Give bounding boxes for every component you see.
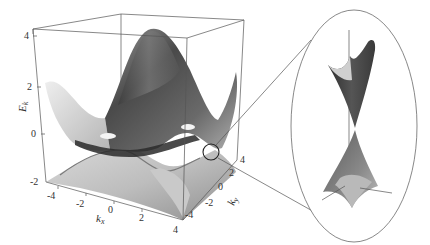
e-tick-4: 4 <box>24 30 29 41</box>
kx-tick-4: 4 <box>173 224 178 235</box>
kx-tick-2: 2 <box>139 212 144 223</box>
ky-tick-neg2: -2 <box>205 197 213 208</box>
ky-tick-4: 4 <box>240 154 245 165</box>
ky-tick-neg4: -4 <box>185 209 193 220</box>
ky-tick-2: 2 <box>229 167 234 178</box>
e-tick-0: 0 <box>31 128 36 139</box>
energy-axis-label: Ek <box>16 101 30 113</box>
energy-axis: 4 2 0 -2 Ek <box>16 30 45 187</box>
dirac-cone-inset <box>291 10 417 242</box>
kx-tick-neg2: -2 <box>76 198 84 209</box>
ky-tick-0: 0 <box>218 181 223 192</box>
e-tick-2: 2 <box>27 81 32 92</box>
band-structure-figure: -4 -2 0 2 4 kx -4 -2 0 2 4 ky 4 2 0 -2 E… <box>0 0 430 245</box>
upper-band-surface <box>45 29 237 157</box>
kx-tick-0: 0 <box>108 204 113 215</box>
e-tick-neg2: -2 <box>30 176 38 187</box>
kx-axis-label: kx <box>96 212 105 226</box>
ky-axis-label: ky <box>225 194 241 207</box>
kx-tick-neg4: -4 <box>47 190 55 201</box>
